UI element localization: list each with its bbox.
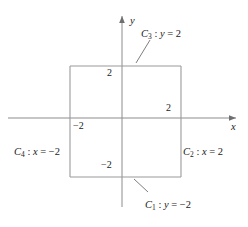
curve-label-c4-separator: : (25, 146, 33, 157)
y-axis-arrowhead (119, 16, 125, 23)
curve-label-c4-value: −2 (49, 146, 60, 157)
curve-label-c3-equals: = (165, 28, 176, 39)
curve-label-c1-value: −2 (180, 199, 191, 210)
leader-line-c3 (136, 40, 150, 63)
curve-label-c3-separator: : (152, 28, 160, 39)
curve-label-c4: C4 : x = −2 (14, 147, 60, 159)
curve-label-c4-name: C (14, 146, 21, 157)
curve-label-c3-name: C (141, 28, 148, 39)
x-axis-label: x (231, 122, 236, 133)
diagram-svg (0, 0, 248, 227)
figure-canvas: y x 2 −2 2 −2 C3 : y = 2 C2 : x = 2 C1 :… (0, 0, 248, 227)
x-axis-arrowhead (229, 115, 236, 121)
curve-label-c2-separator: : (194, 146, 202, 157)
tick-label-x-positive-2: 2 (166, 103, 171, 113)
curve-label-c1: C1 : y = −2 (145, 200, 191, 212)
leader-line-c1 (134, 179, 148, 192)
curve-label-c2-equals: = (207, 146, 218, 157)
curve-label-c1-separator: : (156, 199, 164, 210)
curve-label-c3-value: 2 (176, 28, 181, 39)
y-axis-group (119, 16, 125, 207)
curve-label-c3: C3 : y = 2 (141, 29, 181, 41)
curve-label-c1-equals: = (169, 199, 180, 210)
y-axis-label: y (130, 16, 135, 27)
curve-label-c2-value: 2 (218, 146, 223, 157)
tick-label-y-negative-2: −2 (101, 160, 112, 170)
curve-label-c2: C2 : x = 2 (183, 147, 223, 159)
curve-label-c2-name: C (183, 146, 190, 157)
curve-label-c1-name: C (145, 199, 152, 210)
tick-label-x-negative-2: −2 (73, 121, 84, 131)
tick-label-y-positive-2: 2 (107, 68, 112, 78)
curve-label-c4-equals: = (38, 146, 49, 157)
